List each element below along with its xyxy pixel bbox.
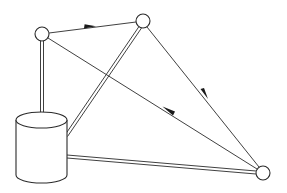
link-top-to-bottom-right bbox=[147, 27, 259, 167]
link-top-to-database bbox=[65, 27, 142, 137]
link-left-to-database bbox=[41, 41, 44, 114]
node-bottom-right bbox=[256, 166, 270, 180]
node-left bbox=[35, 27, 49, 41]
database-cylinder-icon bbox=[16, 112, 67, 183]
arrow-head-icon bbox=[201, 88, 209, 99]
link-database-to-bottom-right bbox=[67, 155, 256, 174]
node-top bbox=[136, 14, 150, 28]
link-bottom-right-to-left bbox=[48, 38, 257, 169]
link-left-to-top bbox=[49, 22, 136, 33]
network-diagram: Three circular nodes and a database cyli… bbox=[0, 0, 287, 193]
diagram-canvas bbox=[0, 0, 287, 193]
